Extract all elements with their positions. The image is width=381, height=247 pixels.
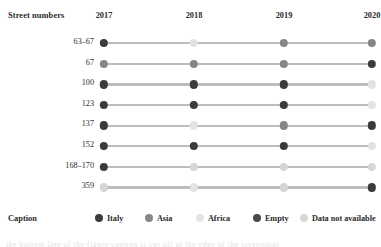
row-label: 152 [82,140,94,149]
data-point-dot[interactable] [280,142,288,150]
row-connector-line [104,125,372,127]
table-row: 168–170 [0,157,381,178]
row-connector-line [104,104,372,106]
row-label: 123 [82,99,94,108]
legend-title: Caption [8,214,37,223]
data-point-dot[interactable] [280,80,288,88]
data-point-dot[interactable] [280,60,288,68]
data-point-dot[interactable] [100,39,108,47]
data-point-dot[interactable] [368,163,376,171]
table-row: 152 [0,136,381,157]
legend-item-africa[interactable]: Africa [196,211,230,225]
table-row: 123 [0,95,381,116]
legend-label: Asia [157,214,172,223]
data-point-dot[interactable] [280,101,288,109]
legend-swatch-dot-icon [300,214,308,222]
data-point-dot[interactable] [280,121,288,129]
row-label: 359 [82,181,94,190]
legend-swatch-dot-icon [196,214,204,222]
data-point-dot[interactable] [368,101,376,109]
data-point-dot[interactable] [190,121,198,129]
data-point-dot[interactable] [190,183,198,191]
row-connector-line [104,83,372,85]
row-connector-line [104,63,372,65]
data-point-dot[interactable] [280,163,288,171]
legend-item-italy[interactable]: Italy [95,211,123,225]
data-point-dot[interactable] [190,163,198,171]
column-header-year-2018: 2018 [186,11,203,20]
data-point-dot[interactable] [280,39,288,47]
chart-rows: 63–6767100123137152168–170359 [0,33,381,198]
data-point-dot[interactable] [190,60,198,68]
row-connector-line [104,186,372,188]
table-row: 137 [0,115,381,136]
legend-label: Empty [265,214,289,223]
row-axis-title: Street numbers [8,11,64,20]
row-label: 63–67 [74,37,94,46]
row-connector-line [104,145,372,147]
row-label: 67 [86,58,94,67]
row-label: 100 [82,78,94,87]
legend-item-data-not-available[interactable]: Data not available [300,211,376,225]
data-point-dot[interactable] [100,101,108,109]
data-point-dot[interactable] [100,142,108,150]
legend-swatch-dot-icon [253,214,261,222]
column-header-year-2017: 2017 [96,11,113,20]
table-row: 63–67 [0,33,381,54]
column-header-year-2020: 2020 [364,11,381,20]
row-connector-line [104,166,372,168]
data-point-dot[interactable] [368,60,376,68]
data-point-dot[interactable] [100,80,108,88]
data-point-dot[interactable] [368,39,376,47]
row-label: 168–170 [65,161,94,170]
row-connector-line [104,42,372,44]
data-point-dot[interactable] [190,142,198,150]
table-row: 359 [0,177,381,198]
data-point-dot[interactable] [100,60,108,68]
chart-header-row: Street numbers 2017201820192020 [0,11,381,23]
legend-item-empty[interactable]: Empty [253,211,289,225]
table-row: 100 [0,74,381,95]
data-point-dot[interactable] [368,80,376,88]
dot-timeline-chart: Street numbers 2017201820192020 63–67671… [0,0,381,247]
table-row: 67 [0,54,381,75]
data-point-dot[interactable] [190,39,198,47]
data-point-dot[interactable] [100,121,108,129]
data-point-dot[interactable] [280,183,288,191]
legend-swatch-dot-icon [95,214,103,222]
chart-legend: Caption ItalyAsiaAfricaEmptyData not ava… [0,211,381,227]
legend-swatch-dot-icon [145,214,153,222]
data-point-dot[interactable] [368,142,376,150]
data-point-dot[interactable] [100,163,108,171]
row-label: 137 [82,119,94,128]
cut-off-caption-line: the bottom line of the figure caption is… [6,240,378,247]
legend-label: Italy [107,214,123,223]
legend-label: Africa [208,214,230,223]
data-point-dot[interactable] [190,101,198,109]
column-header-year-2019: 2019 [276,11,293,20]
legend-item-asia[interactable]: Asia [145,211,172,225]
legend-label: Data not available [312,214,376,223]
data-point-dot[interactable] [190,80,198,88]
data-point-dot[interactable] [100,183,108,191]
data-point-dot[interactable] [368,183,376,191]
data-point-dot[interactable] [368,121,376,129]
